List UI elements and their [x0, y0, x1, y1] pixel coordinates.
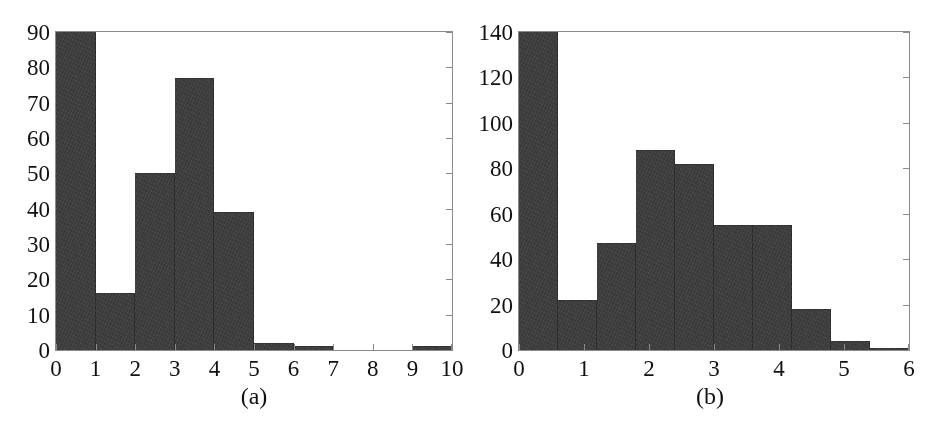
x-tick-mark	[451, 344, 452, 350]
bar-series-b	[519, 32, 909, 350]
histogram-bar	[254, 343, 294, 350]
y-tick-mark	[903, 168, 909, 169]
panel-a-caption: (a)	[241, 383, 268, 410]
y-axis-tick-label: 20	[465, 293, 513, 316]
histogram-bar	[519, 31, 558, 350]
y-axis-tick-label: 90	[0, 21, 50, 44]
y-tick-mark	[446, 67, 452, 68]
y-axis-tick-label: 10	[0, 303, 50, 326]
y-axis-tick-label: 80	[0, 56, 50, 79]
y-tick-mark	[903, 77, 909, 78]
x-tick-mark	[714, 344, 715, 350]
x-tick-mark	[412, 344, 413, 350]
y-tick-mark	[446, 138, 452, 139]
x-tick-mark	[649, 344, 650, 350]
y-tick-mark	[446, 209, 452, 210]
x-axis-tick-label: 5	[838, 357, 850, 380]
x-tick-mark	[175, 344, 176, 350]
plot-area-a	[55, 31, 453, 351]
x-tick-mark	[584, 344, 585, 350]
x-axis-tick-label: 4	[773, 357, 785, 380]
y-axis-tick-label: 30	[0, 233, 50, 256]
y-axis-tick-label: 140	[465, 21, 513, 44]
y-axis-tick-label: 120	[465, 66, 513, 89]
x-tick-mark	[294, 344, 295, 350]
histogram-bar	[714, 225, 753, 350]
y-axis-tick-label: 0	[465, 339, 513, 362]
histogram-bar	[558, 300, 597, 350]
x-axis-tick-label: 1	[90, 357, 102, 380]
x-tick-mark	[254, 344, 255, 350]
panel-b: 020406080100120140 0123456 (b)	[465, 0, 930, 433]
histogram-bar	[294, 346, 334, 350]
histogram-bar	[96, 293, 136, 350]
x-tick-mark	[214, 344, 215, 350]
y-tick-mark	[446, 244, 452, 245]
bar-series-a	[56, 32, 452, 350]
x-axis-tick-label: 0	[50, 357, 62, 380]
plot-area-b	[518, 31, 910, 351]
y-tick-mark	[903, 123, 909, 124]
x-axis-tick-label: 8	[367, 357, 379, 380]
histogram-bar	[792, 309, 831, 350]
histogram-bar	[135, 173, 175, 350]
y-tick-mark	[903, 305, 909, 306]
y-axis-tick-label: 60	[465, 202, 513, 225]
x-tick-mark	[373, 344, 374, 350]
x-axis-tick-label: 3	[169, 357, 181, 380]
x-tick-mark	[135, 344, 136, 350]
y-tick-mark	[446, 103, 452, 104]
x-axis-tick-label: 9	[407, 357, 419, 380]
x-axis-tick-label: 2	[129, 357, 141, 380]
x-axis-tick-label: 7	[327, 357, 339, 380]
y-axis-tick-label: 80	[465, 157, 513, 180]
histogram-bar	[753, 225, 792, 350]
x-tick-mark	[779, 344, 780, 350]
panel-a: 0102030405060708090 012345678910 (a)	[0, 0, 465, 433]
y-axis-tick-label: 20	[0, 268, 50, 291]
x-tick-mark	[96, 344, 97, 350]
y-axis-tick-label: 60	[0, 127, 50, 150]
y-axis-tick-label: 0	[0, 339, 50, 362]
x-axis-tick-label: 6	[288, 357, 300, 380]
y-tick-mark	[446, 315, 452, 316]
x-axis-tick-label: 4	[209, 357, 221, 380]
x-tick-mark	[844, 344, 845, 350]
histogram-bar	[56, 31, 96, 350]
x-tick-mark	[908, 344, 909, 350]
x-axis-tick-label: 0	[513, 357, 525, 380]
y-axis-tick-label: 50	[0, 162, 50, 185]
x-axis-tick-label: 5	[248, 357, 260, 380]
y-tick-mark	[903, 259, 909, 260]
x-tick-mark	[56, 344, 57, 350]
x-axis-tick-label: 10	[441, 357, 464, 380]
y-tick-mark	[446, 173, 452, 174]
y-axis-tick-label: 100	[465, 111, 513, 134]
x-axis-tick-label: 2	[643, 357, 655, 380]
y-tick-mark	[446, 32, 452, 33]
x-tick-mark	[519, 344, 520, 350]
x-axis-tick-label: 6	[903, 357, 915, 380]
histogram-bar	[675, 164, 714, 350]
y-axis-tick-label: 70	[0, 91, 50, 114]
histogram-bar	[597, 243, 636, 350]
histogram-bar	[175, 78, 215, 350]
x-axis-tick-label: 1	[578, 357, 590, 380]
histogram-bar	[636, 150, 675, 350]
y-tick-mark	[903, 32, 909, 33]
y-axis-tick-label: 40	[0, 197, 50, 220]
histogram-figure: 0102030405060708090 012345678910 (a) 020…	[0, 0, 931, 433]
y-tick-mark	[446, 279, 452, 280]
histogram-bar	[831, 341, 870, 350]
x-tick-mark	[333, 344, 334, 350]
y-axis-tick-label: 40	[465, 248, 513, 271]
x-axis-tick-label: 3	[708, 357, 720, 380]
y-tick-mark	[903, 350, 909, 351]
y-tick-mark	[446, 350, 452, 351]
histogram-bar	[214, 212, 254, 350]
y-tick-mark	[903, 214, 909, 215]
panel-b-caption: (b)	[696, 383, 724, 410]
